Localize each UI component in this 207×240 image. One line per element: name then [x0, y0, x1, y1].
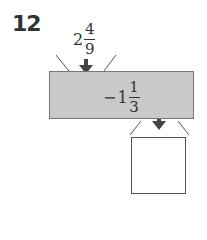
- input-funnel-left: [56, 55, 69, 71]
- answer-box[interactable]: [131, 137, 186, 194]
- operation-denominator: 3: [129, 100, 139, 115]
- output-funnel-left: [130, 121, 141, 135]
- operation-whole: 1: [117, 88, 127, 107]
- operation-mixed-number: − 1 1 3: [103, 80, 140, 115]
- output-funnel-right: [178, 121, 189, 135]
- input-funnel-right: [104, 55, 116, 71]
- operation-fraction: 1 3: [129, 80, 140, 115]
- operation-numerator: 1: [129, 80, 139, 95]
- operation-sign: −: [103, 88, 116, 107]
